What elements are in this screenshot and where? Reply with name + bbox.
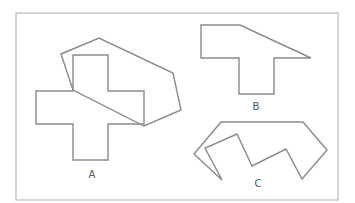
shape-a-hexagon	[61, 38, 181, 126]
shape-b-t-shape	[201, 25, 311, 94]
figure-frame	[16, 13, 338, 200]
shape-b: B	[201, 25, 311, 112]
shape-c: C	[194, 122, 327, 189]
shape-a: A	[36, 38, 181, 180]
figure-canvas: ABC	[0, 0, 355, 203]
shape-a-cross	[36, 55, 144, 160]
shape-label-c: C	[255, 178, 262, 189]
shape-label-b: B	[253, 101, 260, 112]
shape-label-a: A	[89, 169, 96, 180]
shape-c-zigzag	[194, 122, 327, 180]
shapes-group: ABC	[36, 25, 327, 189]
